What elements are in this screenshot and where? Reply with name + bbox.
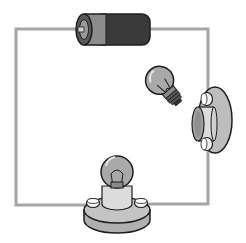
seated-bulb-socket-icon [84, 156, 150, 233]
circuit-svg [0, 0, 246, 243]
loose-bulb-icon [140, 61, 190, 113]
circuit-diagram [0, 0, 246, 243]
battery-icon [76, 14, 150, 45]
empty-socket-icon [192, 87, 232, 153]
